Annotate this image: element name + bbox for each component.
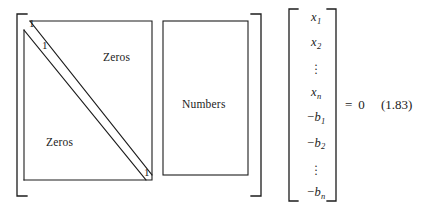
equation-right-hand-side: =0 (345, 97, 365, 113)
matrix-left-bracket (17, 14, 27, 196)
block-label-zeros-upper-right: Zeros (103, 52, 130, 64)
diagonal-one-top: 1 (29, 18, 35, 29)
rhs-zero: 0 (358, 97, 365, 112)
block-label-numbers: Numbers (182, 99, 226, 111)
column-vector-entries: x1x2···xn−b1−b2···−bn (296, 11, 336, 199)
vector-entry-neg-b2: −b2 (307, 137, 325, 150)
vector-entry-neg-bn: −bn (307, 186, 325, 199)
block-label-zeros-lower-left: Zeros (46, 137, 73, 149)
unit-diagonal-upper (30, 21, 152, 175)
equation-number: (1.83) (381, 97, 412, 113)
diagonal-one-bottom: 1 (144, 167, 150, 178)
vector-entry-vdots: ··· (314, 61, 318, 73)
matrix-right-bracket (251, 14, 261, 196)
equals-sign: = (345, 97, 352, 112)
matrix-equation-figure: Zeros Zeros Numbers 1 1 1 x1x2···xn−b1−b… (0, 0, 426, 210)
vector-entry-vdots: ··· (314, 162, 318, 174)
vector-entry-xn: xn (311, 86, 321, 99)
diagonal-one-second: 1 (42, 40, 48, 51)
vector-entry-x1: x1 (311, 11, 321, 24)
vector-entry-x2: x2 (311, 36, 321, 49)
vector-entry-neg-b1: −b1 (307, 111, 325, 124)
